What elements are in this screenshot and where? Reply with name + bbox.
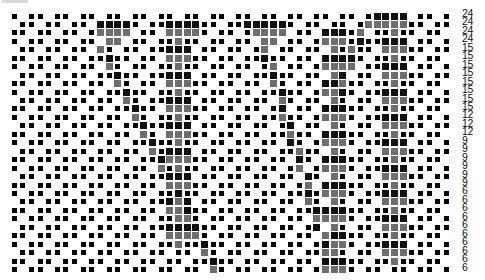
grid-cell — [29, 225, 34, 230]
track-cell — [391, 122, 398, 129]
grid-cell — [358, 73, 363, 78]
track-cell — [400, 224, 407, 231]
grid-cell — [63, 140, 68, 145]
grid-cell — [193, 132, 198, 137]
grid-cell — [288, 267, 293, 272]
grid-cell — [409, 225, 414, 230]
grid-cell — [219, 90, 224, 95]
grid-cell — [262, 225, 267, 230]
grid-cell — [254, 106, 259, 111]
grid-cell — [219, 166, 224, 171]
grid-cell — [375, 81, 380, 86]
track-cell — [331, 97, 338, 104]
grid-cell — [89, 157, 94, 162]
track-cell — [331, 241, 338, 248]
grid-cell — [81, 39, 86, 44]
grid-cell — [349, 242, 354, 247]
track-cell — [331, 46, 338, 53]
grid-cell — [435, 199, 440, 204]
grid-cell — [228, 73, 233, 78]
grid-cell — [89, 56, 94, 61]
grid-cell — [427, 216, 432, 221]
grid-cell — [401, 208, 406, 213]
grid-cell — [288, 174, 293, 179]
grid-cell — [63, 106, 68, 111]
grid-cell — [193, 39, 198, 44]
grid-cell — [89, 30, 94, 35]
track-cell — [331, 249, 338, 256]
grid-cell — [245, 64, 250, 69]
grid-cell — [115, 64, 120, 69]
track-cell — [400, 215, 407, 222]
grid-cell — [401, 106, 406, 111]
track-cell — [331, 55, 338, 62]
grid-cell — [314, 191, 319, 196]
grid-cell — [150, 106, 155, 111]
grid-cell — [185, 90, 190, 95]
grid-cell — [219, 81, 224, 86]
grid-cell — [193, 242, 198, 247]
grid-cell — [115, 259, 120, 264]
grid-cell — [219, 39, 224, 44]
grid-cell — [185, 191, 190, 196]
grid-cell — [349, 233, 354, 238]
grid-cell — [202, 123, 207, 128]
track-cell — [322, 89, 329, 96]
grid-cell — [46, 30, 51, 35]
grid-cell — [72, 123, 77, 128]
grid-cell — [38, 183, 43, 188]
track-cell — [322, 207, 329, 214]
track-cell — [287, 122, 294, 129]
track-cell — [382, 249, 389, 256]
grid-cell — [245, 132, 250, 137]
grid-cell — [254, 157, 259, 162]
grid-cell — [340, 47, 345, 52]
grid-cell — [29, 250, 34, 255]
grid-cell — [288, 98, 293, 103]
grid-cell — [107, 115, 112, 120]
grid-cell — [124, 132, 129, 137]
track-cell — [106, 38, 113, 45]
grid-cell — [271, 267, 276, 272]
grid-cell — [254, 132, 259, 137]
grid-cell — [427, 64, 432, 69]
grid-cell — [141, 166, 146, 171]
grid-cell — [150, 81, 155, 86]
grid-cell — [383, 208, 388, 213]
grid-cell — [55, 149, 60, 154]
grid-cell — [401, 56, 406, 61]
grid-cell — [211, 47, 216, 52]
track-cell — [357, 29, 364, 36]
grid-cell — [245, 14, 250, 19]
grid-cell — [219, 233, 224, 238]
grid-cell — [81, 216, 86, 221]
grid-cell — [280, 56, 285, 61]
grid-cell — [254, 123, 259, 128]
grid-cell — [444, 166, 449, 171]
grid-cell — [81, 199, 86, 204]
grid-cell — [141, 157, 146, 162]
grid-cell — [288, 22, 293, 27]
grid-cell — [133, 225, 138, 230]
track-cell — [365, 21, 372, 28]
track-cell — [184, 80, 191, 87]
grid-cell — [133, 191, 138, 196]
grid-cell — [193, 267, 198, 272]
grid-cell — [159, 191, 164, 196]
grid-cell — [167, 166, 172, 171]
track-cell — [279, 114, 286, 121]
track-cell — [339, 215, 346, 222]
grid-cell — [98, 149, 103, 154]
grid-cell — [202, 132, 207, 137]
grid-cell — [297, 216, 302, 221]
grid-cell — [72, 132, 77, 137]
grid-cell — [262, 73, 267, 78]
grid-cell — [245, 56, 250, 61]
grid-cell — [271, 56, 276, 61]
grid-cell — [280, 132, 285, 137]
grid-cell — [288, 166, 293, 171]
track-cell — [382, 13, 389, 20]
track-cell — [313, 207, 320, 214]
grid-cell — [306, 73, 311, 78]
track-cell — [261, 21, 268, 28]
